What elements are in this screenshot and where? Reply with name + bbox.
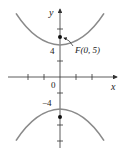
origin-label: 0 [51,80,56,90]
focus-point-lower [58,115,62,119]
tick-label-neg4: −4 [42,98,52,108]
focus-point-upper [58,35,62,39]
x-axis-label: x [110,81,116,92]
y-axis-label: y [48,7,54,18]
tick-label-4: 4 [50,46,55,56]
focus-label: F(0, 5) [74,45,100,55]
hyperbola-diagram: y x 0 4 −4 F(0, 5) [0,0,123,150]
